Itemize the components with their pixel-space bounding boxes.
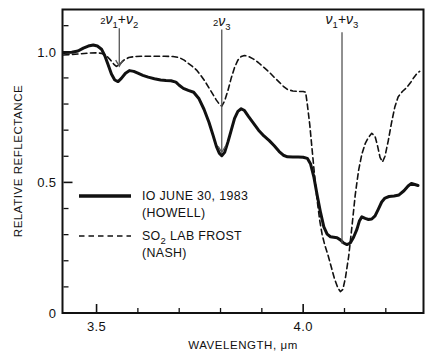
- legend-label-primary: IO JUNE 30, 1983: [142, 189, 248, 203]
- chart-legend: IO JUNE 30, 1983(HOWELL)SO2 LAB FROST(NA…: [79, 189, 248, 260]
- x-tick-label: 4.0: [294, 319, 313, 334]
- x-axis-ticks: [97, 304, 386, 313]
- legend-label-secondary: (HOWELL): [142, 206, 205, 220]
- reflectance-spectrum-chart: 3.54.0 00.51.0 2ν1+ν22ν3ν1+ν3 WAVELENGTH…: [0, 0, 434, 358]
- x-axis-tick-labels: 3.54.0: [87, 319, 313, 334]
- series-so2-lab-frost: [64, 53, 420, 292]
- y-tick-label: 0: [49, 306, 57, 321]
- figure-container: 3.54.0 00.51.0 2ν1+ν22ν3ν1+ν3 WAVELENGTH…: [0, 0, 434, 358]
- y-tick-label: 1.0: [37, 45, 56, 60]
- legend-label-primary: SO2 LAB FROST: [142, 229, 242, 246]
- plot-frame: [63, 10, 424, 314]
- y-axis-ticks: [64, 26, 73, 313]
- x-tick-label: 3.5: [87, 319, 106, 334]
- annotation-label-two-nu3: 2ν3: [213, 13, 231, 32]
- data-series-layer: [64, 45, 420, 292]
- y-tick-label: 0.5: [37, 175, 56, 190]
- y-axis-title: RELATIVE REFLECTANCE: [12, 85, 24, 237]
- x-axis-title: WAVELENGTH, μm: [188, 339, 298, 351]
- y-axis-tick-labels: 00.51.0: [37, 45, 56, 321]
- legend-label-secondary: (NASH): [142, 246, 187, 260]
- annotation-label-nu1-plus-nu3: ν1+ν3: [326, 11, 359, 30]
- annotation-label-two-nu1-plus-nu2: 2ν1+ν2: [100, 11, 138, 30]
